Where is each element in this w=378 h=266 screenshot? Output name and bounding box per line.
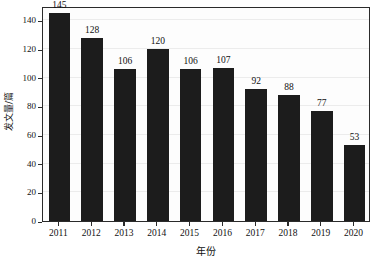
- y-axis-ticks: 020406080100120140: [0, 0, 42, 229]
- bar-value-label: 53: [350, 132, 360, 143]
- bar-series: 14512810612010610792887753: [43, 8, 369, 221]
- bar-value-label: 77: [317, 98, 327, 109]
- x-tick-label: 2011: [49, 227, 68, 239]
- x-tick-mark: [255, 222, 256, 226]
- y-tick-label: 100: [23, 73, 37, 84]
- x-tick-mark: [156, 222, 157, 226]
- y-tick-label: 0: [32, 216, 37, 227]
- bar[interactable]: [180, 69, 201, 221]
- x-tick-label: 2019: [311, 227, 330, 239]
- bar[interactable]: [81, 38, 102, 221]
- x-tick-label: 2017: [246, 227, 265, 239]
- y-tick-label: 40: [27, 159, 36, 170]
- x-tick-mark: [320, 222, 321, 226]
- x-tick-mark: [58, 222, 59, 226]
- bar[interactable]: [344, 145, 365, 221]
- bar-value-label: 128: [85, 25, 99, 36]
- bar-value-label: 120: [151, 36, 165, 47]
- x-tick-mark: [222, 222, 223, 226]
- x-tick-label: 2013: [115, 227, 134, 239]
- bar-value-label: 145: [52, 0, 66, 11]
- bar[interactable]: [114, 69, 135, 221]
- x-tick-label: 2020: [344, 227, 363, 239]
- y-tick-label: 140: [23, 15, 37, 26]
- y-tick-label: 80: [27, 101, 36, 112]
- y-tick-label: 120: [23, 44, 37, 55]
- y-tick-label: 20: [27, 187, 36, 198]
- bar[interactable]: [213, 68, 234, 221]
- x-axis-title: 年份: [42, 243, 370, 258]
- bar[interactable]: [49, 13, 70, 221]
- x-tick-mark: [91, 222, 92, 226]
- bar[interactable]: [278, 95, 299, 221]
- bar[interactable]: [147, 49, 168, 221]
- x-tick-mark: [287, 222, 288, 226]
- x-tick-label: 2012: [82, 227, 101, 239]
- bar-value-label: 92: [251, 76, 261, 87]
- x-tick-mark: [189, 222, 190, 226]
- x-tick-label: 2018: [279, 227, 298, 239]
- x-tick-label: 2015: [180, 227, 199, 239]
- x-tick-label: 2016: [213, 227, 232, 239]
- x-tick-mark: [353, 222, 354, 226]
- plot-area: 14512810612010610792887753: [42, 7, 370, 222]
- x-axis-ticks: 2011201220132014201520162017201820192020: [42, 222, 370, 244]
- bar-chart: 发文量/篇 020406080100120140 145128106120106…: [0, 0, 378, 266]
- bar[interactable]: [311, 111, 332, 221]
- bar-value-label: 106: [183, 56, 197, 67]
- bar-value-label: 88: [284, 82, 294, 93]
- x-tick-label: 2014: [147, 227, 166, 239]
- y-tick-label: 60: [27, 130, 36, 141]
- bar-value-label: 106: [118, 56, 132, 67]
- x-tick-mark: [123, 222, 124, 226]
- bar-value-label: 107: [216, 55, 230, 66]
- bar[interactable]: [245, 89, 266, 221]
